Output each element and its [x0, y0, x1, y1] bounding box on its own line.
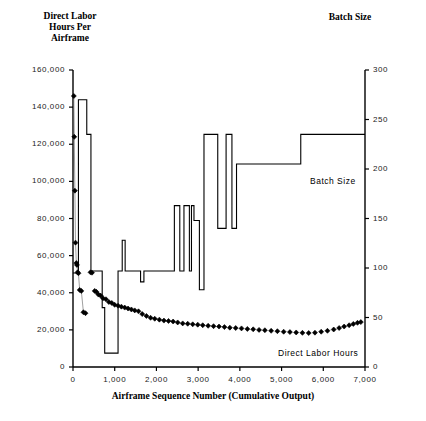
data-point-marker	[233, 326, 238, 331]
data-point-marker	[245, 326, 250, 331]
right-axis-tick-label: 200	[373, 164, 388, 173]
chart-figure: Direct Labor Hours Per Airframe Batch Si…	[0, 0, 426, 421]
data-point-marker	[166, 318, 171, 323]
data-point-marker	[185, 321, 190, 326]
right-axis-tick-label: 50	[373, 313, 383, 322]
data-point-marker	[337, 326, 342, 331]
right-axis-tick-label: 300	[373, 65, 388, 74]
data-point-marker	[325, 328, 330, 333]
left-axis-tick-label: 100,000	[0, 176, 65, 185]
data-point-marker	[195, 322, 200, 327]
data-point-marker	[175, 320, 180, 325]
data-point-marker	[227, 325, 232, 330]
left-axis-tick-label: 140,000	[0, 102, 65, 111]
data-point-marker	[152, 316, 157, 321]
data-point-marker	[306, 331, 311, 336]
data-point-marker	[222, 325, 227, 330]
data-point-marker	[262, 328, 267, 333]
data-point-marker	[275, 329, 280, 334]
data-point-marker	[200, 323, 205, 328]
plot-area	[0, 0, 426, 421]
data-point-marker	[342, 324, 347, 329]
data-point-marker	[171, 319, 176, 324]
data-point-marker	[239, 326, 244, 331]
right-axis-tick-label: 150	[373, 214, 388, 223]
data-point-marker	[206, 323, 211, 328]
data-point-marker	[294, 330, 299, 335]
data-point-marker	[217, 324, 222, 329]
right-axis-tick-label: 0	[373, 362, 378, 371]
left-axis-tick-label: 160,000	[0, 65, 65, 74]
data-point-marker	[269, 328, 274, 333]
right-axis-tick-label: 100	[373, 263, 388, 272]
data-point-marker	[161, 318, 166, 323]
data-point-marker	[190, 322, 195, 327]
data-point-marker	[180, 321, 185, 326]
data-point-marker	[257, 327, 262, 332]
data-point-marker	[287, 330, 292, 335]
data-point-marker	[331, 327, 336, 332]
right-axis-tick-label: 250	[373, 115, 388, 124]
data-point-marker	[251, 327, 256, 332]
left-axis-tick-label: 0	[0, 362, 65, 371]
early-drop-connector	[74, 96, 86, 313]
left-axis-tick-label: 120,000	[0, 139, 65, 148]
data-point-marker	[319, 329, 324, 334]
data-point-marker	[211, 324, 216, 329]
left-axis-tick-label: 20,000	[0, 325, 65, 334]
left-axis-tick-label: 80,000	[0, 214, 65, 223]
data-point-marker	[71, 93, 76, 98]
x-axis-tick-label: 7,000	[335, 375, 395, 384]
batch-size-step-line	[73, 100, 365, 353]
data-point-marker	[73, 240, 78, 245]
left-axis-tick-label: 60,000	[0, 251, 65, 260]
data-point-marker	[281, 329, 286, 334]
data-point-marker	[300, 330, 305, 335]
left-axis-tick-label: 40,000	[0, 288, 65, 297]
data-point-marker	[312, 330, 317, 335]
data-point-marker	[157, 317, 162, 322]
